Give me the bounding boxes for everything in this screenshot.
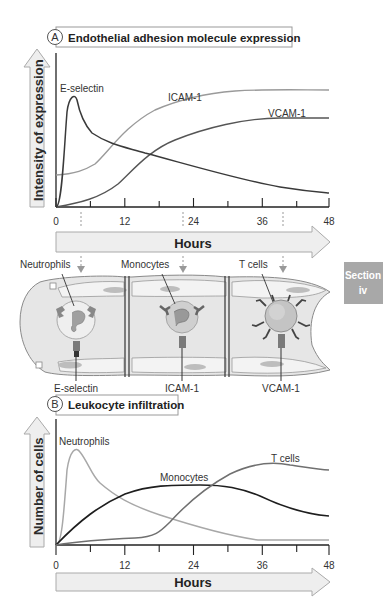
x-tick-labels-a: 0 12 24 36 48	[53, 216, 335, 227]
y-axis-label-a: Intensity of expression	[31, 59, 46, 201]
svg-text:48: 48	[323, 216, 335, 227]
x-tick-labels-b: 0 12 24 36 48	[53, 560, 335, 571]
down-arrow-icon	[279, 266, 287, 273]
panel-a-letter: A	[51, 31, 59, 43]
panel-b-title: Leukocyte infiltration	[68, 399, 184, 411]
vcam-1-label: VCAM-1	[268, 108, 306, 119]
x-axis-arrow-b: Hours	[56, 568, 330, 596]
panel-a-title-box: A Endothelial adhesion molecule expressi…	[48, 27, 301, 47]
section-tab: Section iv	[344, 262, 383, 304]
x-axis-arrow-a: Hours	[56, 226, 330, 258]
svg-text:12: 12	[119, 216, 131, 227]
x-axis-label-b: Hours	[174, 575, 212, 590]
section-tab-line1: Section	[345, 270, 381, 281]
panel-b-title-box: B Leukocyte infiltration	[48, 395, 185, 415]
svg-text:0: 0	[53, 560, 59, 571]
monocytes-curve	[56, 485, 329, 545]
svg-text:24: 24	[188, 216, 200, 227]
y-axis-label-b: Number of cells	[31, 437, 46, 535]
monocytes-label: Monocytes	[160, 472, 208, 483]
e-selectin-label: E-selectin	[60, 83, 104, 94]
t-cells-label: T cells	[271, 453, 300, 464]
svg-text:36: 36	[257, 216, 269, 227]
icam-1-label: ICAM-1	[168, 92, 202, 103]
monocytes-diagram-label: Monocytes	[121, 259, 169, 270]
panel-b-letter: B	[51, 398, 58, 410]
x-ticks-b	[56, 545, 329, 555]
panel-a: A Endothelial adhesion molecule expressi…	[24, 27, 335, 273]
x-axis-label-a: Hours	[174, 236, 212, 251]
neutrophils-diagram-label: Neutrophils	[20, 259, 71, 270]
svg-text:24: 24	[188, 560, 200, 571]
panel-b: B Leukocyte infiltration Number of cells…	[24, 395, 335, 596]
x-ticks-a	[56, 198, 329, 207]
y-axis-arrow-a: Intensity of expression	[24, 49, 50, 207]
vcam-1-diagram-label: VCAM-1	[262, 383, 300, 394]
icam-1-diagram-label: ICAM-1	[165, 383, 199, 394]
vessel-diagram: Neutrophils Monocytes T cells	[20, 259, 330, 394]
down-arrow-icon	[179, 266, 187, 273]
svg-text:12: 12	[119, 560, 131, 571]
panel-a-title: Endothelial adhesion molecule expression	[68, 32, 301, 44]
section-tab-line2: iv	[359, 285, 368, 296]
svg-text:48: 48	[323, 560, 335, 571]
y-axis-arrow-b: Number of cells	[24, 417, 50, 547]
svg-text:36: 36	[257, 560, 269, 571]
down-arrow-icon	[77, 266, 85, 273]
tcells-diagram-label: T cells	[239, 259, 268, 270]
neutrophils-label: Neutrophils	[59, 436, 110, 447]
e-selectin-diagram-label: E-selectin	[54, 383, 98, 394]
svg-text:0: 0	[53, 216, 59, 227]
